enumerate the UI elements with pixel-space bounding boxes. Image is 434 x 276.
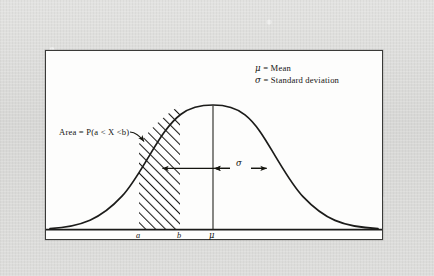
axis-label-b: b [177, 231, 181, 240]
sd-equals-sign: = [263, 75, 268, 85]
mean-equals-sign: = [263, 63, 268, 73]
axis-label-mu: μ [209, 230, 214, 240]
sd-label-text: Standard deviation [271, 75, 339, 85]
scanned-page: μ = Mean σ = Standard deviation Area = P… [0, 0, 434, 276]
sigma-symbol: σ [255, 75, 261, 85]
sigma-arrow-label: σ [236, 158, 242, 168]
shaded-area-region [138, 91, 182, 230]
legend-row-mean: μ = Mean [255, 62, 339, 74]
normal-curve [50, 105, 378, 229]
axis-label-a: a [136, 231, 140, 240]
mu-symbol: μ [255, 63, 261, 73]
mean-label-text: Mean [271, 63, 291, 73]
legend: μ = Mean σ = Standard deviation [255, 62, 339, 86]
legend-row-sd: σ = Standard deviation [255, 74, 339, 86]
area-annotation-label: Area = P(a < X <b) [59, 127, 129, 137]
